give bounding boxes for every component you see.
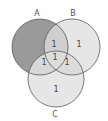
- venn-diagram: A B C 1 1 1 1 1 1: [0, 0, 108, 121]
- region-a-and-b-value: 1: [51, 40, 56, 49]
- region-b-only-value: 1: [76, 40, 81, 49]
- region-c-only-value: 1: [53, 85, 58, 94]
- set-c-label: C: [52, 110, 58, 119]
- region-b-and-c-value: 1: [64, 58, 69, 67]
- region-a-and-c-value: 1: [41, 58, 46, 67]
- region-a-b-c-value: 1: [52, 53, 57, 62]
- set-b-label: B: [70, 9, 76, 18]
- set-a-label: A: [34, 9, 40, 18]
